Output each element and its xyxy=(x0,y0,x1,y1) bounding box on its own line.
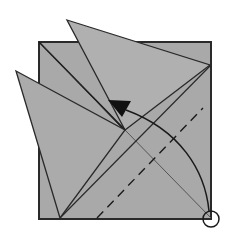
origami-diagram xyxy=(0,0,229,241)
